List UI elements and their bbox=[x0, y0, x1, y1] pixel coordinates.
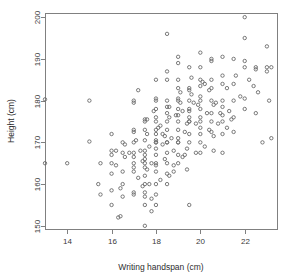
data-point bbox=[154, 78, 157, 81]
data-point bbox=[148, 145, 151, 148]
data-point bbox=[110, 172, 113, 175]
data-point bbox=[134, 139, 137, 142]
data-point bbox=[143, 224, 146, 227]
data-point bbox=[199, 51, 202, 54]
data-point bbox=[150, 197, 153, 200]
data-point bbox=[172, 149, 175, 152]
data-point bbox=[203, 145, 206, 148]
data-point bbox=[212, 134, 215, 137]
data-point bbox=[161, 132, 164, 135]
data-point bbox=[143, 128, 146, 131]
data-point bbox=[188, 120, 191, 123]
data-point bbox=[121, 170, 124, 173]
data-point bbox=[123, 155, 126, 158]
data-point bbox=[185, 168, 188, 171]
data-point bbox=[199, 141, 202, 144]
data-point bbox=[188, 132, 191, 135]
data-point bbox=[181, 109, 184, 112]
data-point bbox=[137, 176, 140, 179]
data-point bbox=[221, 55, 224, 58]
data-point bbox=[172, 164, 175, 167]
data-point bbox=[121, 182, 124, 185]
data-point bbox=[143, 162, 146, 165]
data-point bbox=[143, 139, 146, 142]
data-point bbox=[176, 55, 179, 58]
data-point bbox=[168, 174, 171, 177]
data-point bbox=[176, 153, 179, 156]
data-point bbox=[214, 101, 217, 104]
data-point bbox=[225, 126, 228, 129]
data-point bbox=[183, 153, 186, 156]
data-point bbox=[176, 136, 179, 139]
data-point bbox=[165, 128, 168, 131]
data-point bbox=[199, 126, 202, 129]
data-point bbox=[210, 111, 213, 114]
data-point bbox=[265, 66, 268, 69]
y-tick-label: 170 bbox=[33, 135, 42, 149]
data-point bbox=[154, 132, 157, 135]
y-axis-ticks: 150160170180190200 bbox=[33, 10, 45, 233]
data-point bbox=[270, 136, 273, 139]
data-point bbox=[148, 182, 151, 185]
y-tick-label: 180 bbox=[33, 94, 42, 108]
data-point bbox=[143, 174, 146, 177]
data-point bbox=[176, 141, 179, 144]
data-point bbox=[190, 93, 193, 96]
data-point bbox=[99, 193, 102, 196]
data-point bbox=[121, 195, 124, 198]
data-point bbox=[216, 122, 219, 125]
data-point bbox=[137, 89, 140, 92]
data-point bbox=[150, 162, 153, 165]
data-point bbox=[221, 99, 224, 102]
data-point bbox=[165, 70, 168, 73]
data-point bbox=[221, 105, 224, 108]
data-point bbox=[221, 151, 224, 154]
data-point bbox=[219, 111, 222, 114]
data-point bbox=[128, 151, 131, 154]
data-point bbox=[110, 149, 113, 152]
scatter-plot-figure: 1416182022 150160170180190200 Writing ha… bbox=[0, 0, 295, 278]
data-point bbox=[199, 116, 202, 119]
data-point bbox=[243, 107, 246, 110]
data-point bbox=[176, 86, 179, 89]
data-point bbox=[154, 120, 157, 123]
data-point bbox=[110, 189, 113, 192]
data-point bbox=[143, 195, 146, 198]
data-point bbox=[176, 120, 179, 123]
data-point bbox=[221, 74, 224, 77]
data-point bbox=[192, 101, 195, 104]
data-point bbox=[141, 184, 144, 187]
data-point bbox=[65, 162, 68, 165]
data-point bbox=[88, 99, 91, 102]
data-point bbox=[132, 151, 135, 154]
data-point bbox=[119, 187, 122, 190]
data-point bbox=[205, 111, 208, 114]
data-point bbox=[165, 141, 168, 144]
data-point bbox=[154, 116, 157, 119]
data-point bbox=[199, 84, 202, 87]
data-point bbox=[168, 105, 171, 108]
data-point bbox=[152, 109, 155, 112]
data-point bbox=[252, 84, 255, 87]
data-point bbox=[150, 210, 153, 213]
data-point bbox=[114, 149, 117, 152]
data-point bbox=[154, 182, 157, 185]
data-point bbox=[188, 141, 191, 144]
data-point bbox=[165, 182, 168, 185]
data-point bbox=[110, 203, 113, 206]
data-point bbox=[201, 80, 204, 83]
data-point bbox=[170, 136, 173, 139]
y-axis-title: Height (cm) bbox=[6, 99, 16, 143]
plot-frame bbox=[46, 14, 278, 230]
data-point bbox=[243, 15, 246, 18]
x-tick-label: 18 bbox=[152, 237, 161, 246]
data-point bbox=[154, 193, 157, 196]
data-point bbox=[188, 99, 191, 102]
data-point bbox=[165, 151, 168, 154]
data-point bbox=[188, 116, 191, 119]
data-point bbox=[143, 149, 146, 152]
data-point bbox=[172, 170, 175, 173]
data-point bbox=[265, 70, 268, 73]
chart-canvas: 1416182022 150160170180190200 Writing ha… bbox=[0, 0, 295, 278]
data-point bbox=[145, 168, 148, 171]
